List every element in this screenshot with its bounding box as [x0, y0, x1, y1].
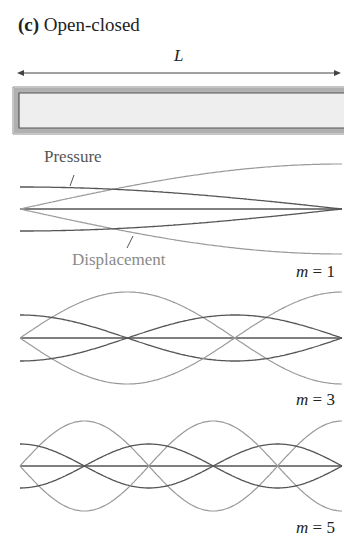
mode-label-3: m = 3	[296, 390, 335, 410]
pressure-pointer	[70, 175, 74, 186]
displacement-label: Displacement	[72, 250, 165, 270]
mode-label-5: m = 5	[296, 518, 335, 538]
standing-waves	[20, 164, 342, 511]
mode-label-1: m = 1	[296, 262, 335, 282]
displacement-pointer	[127, 236, 133, 248]
length-arrow	[17, 70, 341, 76]
tube	[13, 87, 344, 134]
pressure-label: Pressure	[44, 147, 102, 167]
displacement-curve	[20, 209, 342, 254]
displacement-curve	[20, 164, 342, 209]
